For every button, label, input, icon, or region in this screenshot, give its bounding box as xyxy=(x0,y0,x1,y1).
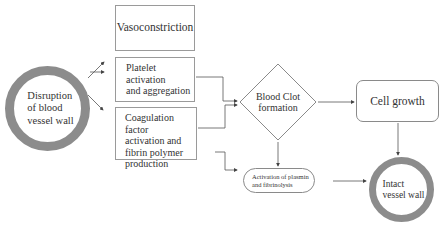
line: activation and xyxy=(125,135,181,146)
line: production xyxy=(125,158,168,169)
line: Blood Clot xyxy=(256,91,300,102)
line: of blood xyxy=(27,102,62,113)
node-blood-clot-formation: Blood Clot formation xyxy=(239,63,317,141)
node-vasoconstriction: Vasoconstriction xyxy=(115,5,195,51)
node-coag-label: Coagulation factor activation and fibrin… xyxy=(125,112,196,170)
node-platelet-label: Platelet activation and aggregation xyxy=(126,62,194,97)
node-clot-label: Blood Clot formation xyxy=(239,63,317,141)
line: fibrin polymer xyxy=(125,147,183,158)
line: vessel wall xyxy=(27,115,73,126)
arrow-disruption-to-vaso xyxy=(88,62,104,78)
node-intact-vessel-wall: Intact vessel wall xyxy=(369,157,434,222)
node-intact-label: Intact vessel wall xyxy=(383,179,425,201)
line: Activation of plasmin xyxy=(252,173,309,180)
node-vasoconstriction-label: Vasoconstriction xyxy=(117,21,194,34)
line: and fibrinolysis xyxy=(252,181,293,188)
node-cell-growth: Cell growth xyxy=(356,80,439,122)
node-plasmin-label: Activation of plasmin and fibrinolysis xyxy=(252,173,309,189)
line: Coagulation factor xyxy=(125,112,174,135)
arrow-disruption-to-coag xyxy=(88,95,103,110)
node-coagulation-factor-activation: Coagulation factor activation and fibrin… xyxy=(115,107,197,160)
arrow-platelet-to-clot xyxy=(196,77,237,101)
line: vessel wall xyxy=(383,190,425,200)
node-disruption-of-blood-vessel-wall: Disruption of blood vessel wall xyxy=(5,66,90,151)
line: Intact xyxy=(383,179,405,189)
arrow-coag-to-plasmin xyxy=(215,152,237,170)
node-plasmin-activation: Activation of plasmin and fibrinolysis xyxy=(243,168,315,193)
node-disruption-label: Disruption of blood vessel wall xyxy=(27,90,73,126)
arrow-coag-to-clot xyxy=(198,105,237,128)
line: Disruption xyxy=(27,90,72,101)
node-cell-growth-label: Cell growth xyxy=(370,95,425,107)
line: formation xyxy=(258,102,297,113)
line: and aggregation xyxy=(126,85,190,96)
line: Platelet activation xyxy=(126,62,165,85)
node-platelet-activation: Platelet activation and aggregation xyxy=(115,57,195,102)
